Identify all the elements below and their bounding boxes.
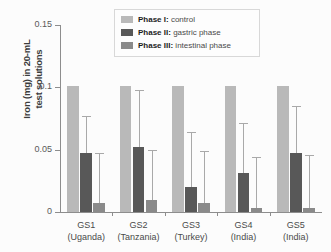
- legend-swatch: [121, 16, 133, 23]
- x-tick-label: GS1 (Uganda): [60, 220, 112, 243]
- error-bar: [296, 106, 297, 153]
- bar: [93, 203, 105, 212]
- legend-swatch: [121, 42, 133, 49]
- error-bar-cap: [252, 157, 261, 158]
- bar: [172, 86, 184, 212]
- x-tick: [270, 212, 271, 216]
- legend-label: Phase I: control: [138, 15, 195, 24]
- bar: [198, 203, 210, 212]
- bar: [146, 200, 158, 212]
- legend-item: Phase III: intestinal phase: [121, 39, 253, 52]
- bar: [277, 86, 289, 212]
- error-bar-cap: [292, 106, 301, 107]
- bar: [225, 86, 237, 212]
- x-axis-line: [60, 212, 322, 213]
- x-tick-label: GS3 (Turkey): [165, 220, 217, 243]
- error-bar: [86, 116, 87, 153]
- error-bar: [152, 150, 153, 200]
- legend-label: Phase II: gastric phase: [138, 28, 221, 37]
- error-bar-cap: [305, 155, 314, 156]
- error-bar-cap: [187, 132, 196, 133]
- error-bar-cap: [239, 123, 248, 124]
- y-tick-label: 0.05: [34, 144, 52, 154]
- y-tick: 0.15: [55, 25, 60, 26]
- error-bar-cap: [95, 153, 104, 154]
- x-tick: [112, 212, 113, 216]
- error-bar-cap: [148, 150, 157, 151]
- bar: [133, 147, 145, 212]
- bar: [238, 173, 250, 212]
- chart-figure: Iron (mg) in 20-mL test solutions 00.050…: [0, 0, 331, 252]
- x-tick-label: GS2 (Tanzania): [112, 220, 164, 243]
- y-axis-line: [60, 25, 61, 212]
- y-tick-label: 0.1: [39, 81, 52, 91]
- x-tick-label: GS5 (India): [270, 220, 322, 243]
- bar: [120, 86, 132, 212]
- error-bar-cap: [135, 90, 144, 91]
- legend-label: Phase III: intestinal phase: [138, 41, 231, 50]
- legend-swatch: [121, 29, 133, 36]
- legend-item: Phase II: gastric phase: [121, 26, 253, 39]
- x-tick: [217, 212, 218, 216]
- x-tick-label: GS4 (India): [217, 220, 269, 243]
- chart-legend: Phase I: controlPhase II: gastric phaseP…: [114, 9, 260, 57]
- error-bar: [204, 151, 205, 203]
- bar: [67, 86, 79, 212]
- legend-item: Phase I: control: [121, 13, 253, 26]
- bar: [290, 153, 302, 212]
- bar: [303, 208, 315, 212]
- y-tick-label: 0: [47, 206, 52, 216]
- y-axis-title-text: Iron (mg) in 20-mL test solutions: [21, 39, 45, 118]
- error-bar-cap: [200, 151, 209, 152]
- y-tick-label: 0.15: [34, 19, 52, 29]
- error-bar-cap: [82, 116, 91, 117]
- bar: [80, 153, 92, 212]
- y-tick: 0.1: [55, 87, 60, 88]
- error-bar: [243, 123, 244, 173]
- error-bar: [309, 155, 310, 209]
- error-bar: [191, 132, 192, 187]
- error-bar: [256, 157, 257, 208]
- bar: [251, 208, 263, 212]
- y-tick: 0: [55, 212, 60, 213]
- error-bar: [139, 90, 140, 147]
- bar: [185, 187, 197, 212]
- y-tick: 0.05: [55, 150, 60, 151]
- x-tick: [165, 212, 166, 216]
- error-bar: [99, 153, 100, 203]
